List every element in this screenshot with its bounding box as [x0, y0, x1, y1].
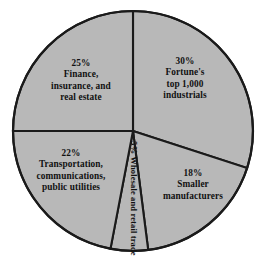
pie-chart-graphic: [0, 0, 264, 269]
pie-chart-figure: 25% Finance, insurance, and real estate …: [0, 0, 264, 269]
pie-slice-finance-insurance-realestate[interactable]: [13, 11, 133, 131]
